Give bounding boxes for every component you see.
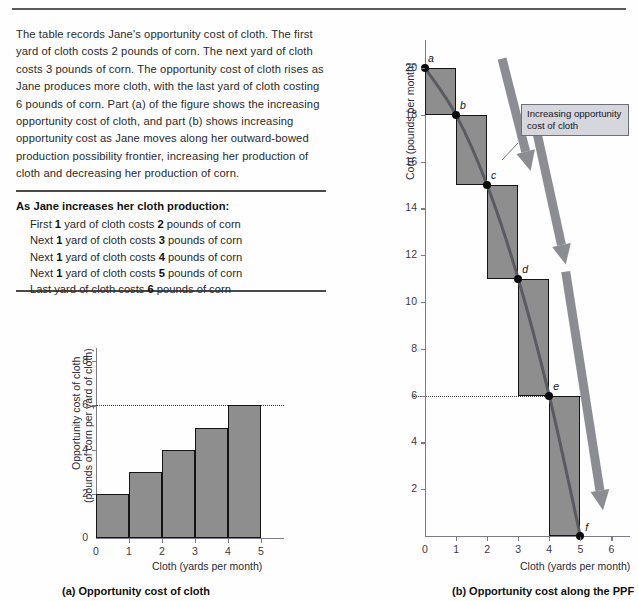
panel-b-ytick-label: 10 <box>393 296 417 307</box>
panel-b-callout-leader <box>502 143 518 160</box>
panel-a-bar <box>228 405 261 538</box>
panel-b-xtick <box>487 537 488 541</box>
panel-b-ytick-label: 4 <box>393 436 417 447</box>
panel-b-ytick <box>421 208 425 209</box>
cost-table-row: First 1 yard of cloth costs 2 pounds of … <box>16 216 326 232</box>
panel-b-point-label-f: f <box>585 521 588 533</box>
panel-b-xtick-label: 1 <box>446 544 466 555</box>
panel-a-xtick-label: 0 <box>86 546 106 557</box>
panel-a-bar <box>162 450 195 538</box>
panel-b-point-b <box>452 111 460 119</box>
panel-b-point-e <box>545 392 553 400</box>
panel-b-xtick <box>456 537 457 541</box>
panel-a-xtick-label: 5 <box>251 546 271 557</box>
page-top-rule <box>12 8 626 10</box>
panel-a-xtick <box>162 539 163 543</box>
panel-b-arrow-head <box>591 489 610 510</box>
panel-b-xtick-label: 6 <box>601 544 621 555</box>
panel-b-ytick <box>421 68 425 69</box>
panel-b-xtick <box>580 537 581 541</box>
cost-table-heading: As Jane increases her cloth production: <box>16 198 326 214</box>
panel-b-arrow-shaft <box>561 271 604 491</box>
panel-b-arrow-head <box>552 243 571 265</box>
panel-b-point-label-b: b <box>460 99 466 111</box>
panel-b-ytick-label: 6 <box>393 390 417 401</box>
panel-b-ytick <box>421 349 425 350</box>
panel-a-xaxis <box>96 538 284 539</box>
panel-a-ylabel-line1: Opportunity cost of cloth <box>70 357 83 470</box>
panel-a-xtick <box>261 539 262 543</box>
panel-a-xtick-label: 1 <box>119 546 139 557</box>
figure-page: The table records Jane's opportunity cos… <box>0 0 638 601</box>
panel-b-xtick <box>549 537 550 541</box>
panel-b-xtick <box>518 537 519 541</box>
panel-b-xtick-label: 3 <box>508 544 528 555</box>
panel-a-ylabel-line2: (pounds of corn per yard of cloth) <box>82 348 95 503</box>
panel-a-xtick <box>228 539 229 543</box>
panel-a-xtick <box>129 539 130 543</box>
panel-a-xtick <box>195 539 196 543</box>
panel-a-xtick-label: 4 <box>218 546 238 557</box>
panel-a-caption: (a) Opportunity cost of cloth <box>62 585 210 597</box>
panel-b-xtick <box>611 537 612 541</box>
panel-b-ytick <box>421 489 425 490</box>
panel-a-ytick-label: 0 <box>62 532 88 543</box>
chart-panel-a: 02468012345 <box>0 340 330 555</box>
cost-table: As Jane increases her cloth production: … <box>16 198 326 297</box>
panel-a-xlabel: Cloth (yards per month) <box>152 560 262 573</box>
intro-paragraph: The table records Jane's opportunity cos… <box>16 26 326 183</box>
panel-b-ytick <box>421 302 425 303</box>
panel-b-ytick <box>421 396 425 397</box>
panel-a-bar <box>129 472 162 538</box>
panel-b-xtick-label: 4 <box>539 544 559 555</box>
panel-b-point-label-e: e <box>553 380 559 392</box>
panel-b-ytick-label: 2 <box>393 483 417 494</box>
panel-b-xlabel: Cloth (yards per month) <box>520 560 630 573</box>
panel-a-xtick-label: 2 <box>152 546 172 557</box>
panel-b-caption: (b) Opportunity cost along the PPF <box>452 585 634 597</box>
panel-b-ytick-label: 8 <box>393 343 417 354</box>
cost-table-row: Last yard of cloth costs 6 pounds of cor… <box>16 281 326 297</box>
panel-b-ppf-curve <box>425 68 580 536</box>
panel-b-ytick <box>421 162 425 163</box>
cost-table-row: Next 1 yard of cloth costs 5 pounds of c… <box>16 265 326 281</box>
panel-a-bar <box>96 494 129 538</box>
panel-b-xtick-label: 5 <box>570 544 590 555</box>
panel-b-ytick <box>421 442 425 443</box>
panel-b-ytick <box>421 115 425 116</box>
panel-b-arrow-head <box>516 149 534 171</box>
panel-a-xtick-label: 3 <box>185 546 205 557</box>
cost-table-row: Next 1 yard of cloth costs 4 pounds of c… <box>16 249 326 265</box>
panel-b-point-d <box>514 275 522 283</box>
panel-b-point-label-c: c <box>491 169 496 181</box>
panel-b-point-label-a: a <box>428 52 434 64</box>
panel-b-ytick-label: 14 <box>393 202 417 213</box>
panel-b-callout: Increasing opportunity cost of cloth <box>521 104 629 136</box>
chart-panel-b: abcdefIncreasing opportunity cost of clo… <box>390 30 638 545</box>
panel-b-point-label-d: d <box>522 263 528 275</box>
panel-b-ytick-label: 12 <box>393 249 417 260</box>
panel-b-ytick <box>421 255 425 256</box>
table-rule-top <box>16 190 326 192</box>
cost-table-row: Next 1 yard of cloth costs 3 pounds of c… <box>16 232 326 248</box>
panel-a-bar <box>195 428 228 538</box>
panel-b-ylabel: Corn (pounds per month) <box>404 63 417 180</box>
panel-b-xtick-label: 0 <box>415 544 435 555</box>
panel-b-xtick-label: 2 <box>477 544 497 555</box>
